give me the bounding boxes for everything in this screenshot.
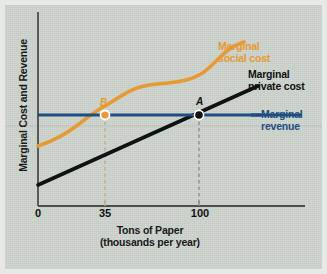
- x-axis-title: Tons of Paper (thousands per year): [45, 224, 255, 248]
- series-label-mpc-line1: Marginal: [248, 68, 290, 80]
- chart-figure: Marginal Cost and Revenue Tons of Paper …: [5, 5, 322, 269]
- x-tick-label-0: 0: [18, 207, 58, 219]
- x-tick-label-100: 100: [180, 207, 220, 219]
- point-label-B: B: [100, 97, 107, 108]
- series-label-mpc-line2: private cost: [248, 81, 305, 93]
- series-label-marginal-social-cost: Marginal social cost: [218, 41, 270, 64]
- series-marginal-private-cost: [38, 86, 258, 185]
- series-label-marginal-revenue: Marginal revenue: [261, 109, 303, 132]
- x-axis-title-line1: Tons of Paper: [117, 224, 184, 236]
- series-label-marginal-private-cost: Marginal private cost: [248, 69, 305, 92]
- point-B-marker[interactable]: [101, 111, 108, 118]
- x-axis-title-line2: (thousands per year): [45, 236, 255, 248]
- y-axis-title: Marginal Cost and Revenue: [18, 26, 29, 186]
- point-A-marker[interactable]: [195, 111, 203, 119]
- series-marginal-social-cost: [38, 42, 244, 146]
- series-label-msc-line1: Marginal: [218, 40, 260, 52]
- series-label-msc-line2: social cost: [218, 53, 270, 65]
- series-label-mr-line1: Marginal: [261, 108, 303, 120]
- series-label-mr-line2: revenue: [261, 121, 303, 133]
- point-label-A: A: [196, 96, 203, 107]
- x-tick-label-35: 35: [85, 207, 125, 219]
